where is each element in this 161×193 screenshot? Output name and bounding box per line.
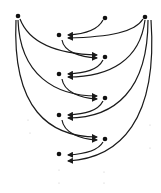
- node-B3: [103, 137, 108, 142]
- node-A1: [57, 33, 62, 38]
- node-T: [103, 16, 108, 21]
- edge-B3-to-A4: [68, 142, 103, 155]
- edge-T-to-A1: [68, 20, 103, 35]
- edge-group: [16, 19, 152, 161]
- node-A2: [57, 72, 62, 77]
- node-A4: [57, 152, 62, 157]
- directed-graph-diagram: [0, 0, 161, 193]
- node-A3: [57, 113, 62, 118]
- node-R: [143, 15, 148, 20]
- node-B1: [103, 55, 108, 60]
- edge-L-to-B2: [18, 20, 97, 96]
- node-B2: [103, 96, 108, 101]
- edge-B1-to-A2: [68, 60, 103, 74]
- node-group: [16, 14, 148, 157]
- edge-R-to-A2: [68, 20, 145, 77]
- node-L: [16, 14, 21, 19]
- edge-R-to-A1: [68, 19, 143, 38]
